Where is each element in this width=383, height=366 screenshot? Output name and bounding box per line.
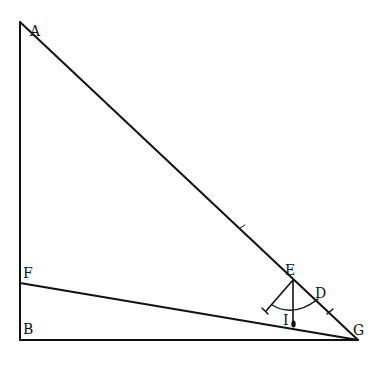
label-E: E	[285, 262, 295, 278]
label-F: F	[23, 265, 33, 281]
label-B: B	[23, 321, 33, 337]
label-A: A	[29, 23, 41, 39]
label-D: D	[315, 285, 326, 301]
diagram-canvas: A F B E D I G	[0, 0, 383, 366]
label-G: G	[353, 322, 364, 338]
quadrant-arm	[266, 280, 293, 311]
label-I: I	[283, 312, 289, 328]
hypotenuse-tick-upper	[240, 225, 245, 228]
quadrant-arc	[272, 299, 318, 310]
plumb-bob-icon	[291, 321, 295, 328]
